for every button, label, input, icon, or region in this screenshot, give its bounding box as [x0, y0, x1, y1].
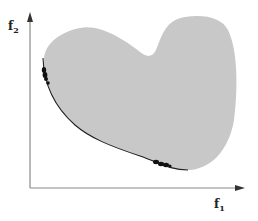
- y-axis-arrowhead-icon: [27, 12, 33, 22]
- pareto-diagram: f2 f1: [0, 0, 258, 221]
- feasible-region: [44, 16, 236, 170]
- y-axis-label-subscript: 2: [13, 25, 19, 35]
- y-axis-label: f2: [8, 20, 19, 34]
- x-axis-label: f1: [214, 198, 225, 212]
- x-axis-arrowhead-icon: [235, 185, 245, 191]
- x-axis-label-subscript: 1: [219, 203, 225, 213]
